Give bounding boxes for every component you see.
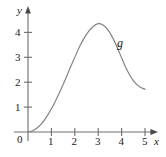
y-axis-arrowhead [25, 6, 31, 14]
x-tick-label-4: 4 [119, 136, 125, 147]
x-tick-label-5: 5 [142, 136, 148, 147]
y-tick-label-1: 1 [15, 102, 21, 113]
origin-label: 0 [17, 134, 23, 145]
x-tick-label-2: 2 [72, 136, 78, 147]
graph-figure: 0 1 2 3 4 5 1 2 3 4 y x g [0, 0, 166, 157]
x-axis-label: x [154, 136, 159, 147]
y-tick-label-3: 3 [15, 52, 21, 63]
curve-label-g: g [117, 37, 123, 49]
y-tick-label-2: 2 [15, 77, 21, 88]
curve-g [28, 24, 145, 132]
x-tick-label-3: 3 [95, 136, 101, 147]
plot-canvas [0, 0, 166, 157]
y-tick-label-4: 4 [15, 27, 21, 38]
y-axis [25, 6, 31, 141]
x-axis [14, 129, 158, 135]
x-tick-label-1: 1 [48, 136, 54, 147]
y-axis-label: y [17, 5, 22, 16]
